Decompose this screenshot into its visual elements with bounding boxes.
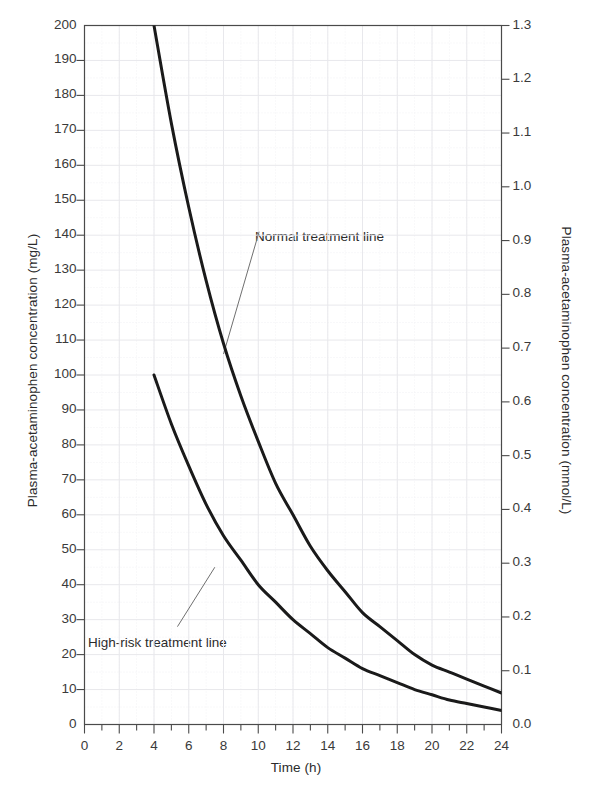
plot-canvas xyxy=(0,0,599,794)
acetaminophen-nomogram-chart: Plasma-acetaminophen concentration (mg/L… xyxy=(0,0,599,794)
leader-line-high-risk xyxy=(177,567,214,626)
leader-line-normal xyxy=(224,232,260,354)
